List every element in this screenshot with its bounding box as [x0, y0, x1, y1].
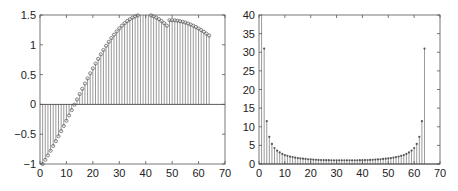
dot-marker: [392, 157, 394, 159]
y-tick-label: 20: [243, 84, 255, 96]
dot-marker: [346, 159, 348, 161]
y-tick-label: 10: [243, 121, 255, 133]
dot-marker: [307, 158, 309, 160]
x-tick-label: 20: [305, 167, 317, 179]
dot-marker: [263, 47, 265, 49]
dot-marker: [266, 120, 268, 122]
dot-marker: [382, 158, 384, 160]
dot-marker: [279, 151, 281, 153]
dot-marker: [400, 155, 402, 157]
y-tick-label: 5: [249, 139, 255, 151]
dot-marker: [330, 159, 332, 161]
dot-marker: [385, 158, 387, 160]
dot-marker: [408, 151, 410, 153]
dot-marker: [268, 136, 270, 138]
right-stem-plot: 0102030405060700510152025303540: [243, 9, 446, 179]
dot-marker: [367, 159, 369, 161]
dot-marker: [294, 157, 296, 159]
dot-marker: [354, 159, 356, 161]
dot-marker: [323, 159, 325, 161]
x-tick-label: 10: [60, 167, 72, 179]
x-tick-label: 40: [140, 167, 152, 179]
dot-marker: [374, 159, 376, 161]
dot-marker: [338, 159, 340, 161]
dot-marker: [372, 159, 374, 161]
dot-marker: [356, 159, 358, 161]
dot-marker: [359, 159, 361, 161]
y-tick-label: 15: [243, 102, 255, 114]
dot-marker: [320, 159, 322, 161]
x-tick-label: 70: [434, 167, 446, 179]
dot-marker: [343, 159, 345, 161]
dot-marker: [410, 149, 412, 151]
dot-marker: [390, 157, 392, 159]
y-tick-label: 1.5: [21, 9, 36, 21]
dot-marker: [395, 156, 397, 158]
x-tick-label: 50: [382, 167, 394, 179]
x-tick-label: 40: [356, 167, 368, 179]
x-tick-label: 0: [256, 167, 262, 179]
x-tick-label: 60: [408, 167, 420, 179]
dot-marker: [310, 158, 312, 160]
dot-marker: [351, 159, 353, 161]
dot-marker: [315, 159, 317, 161]
x-tick-label: 0: [37, 167, 43, 179]
dot-marker: [289, 155, 291, 157]
dot-marker: [413, 147, 415, 149]
dot-marker: [423, 47, 425, 49]
dot-marker: [364, 159, 366, 161]
y-tick-label: 0: [30, 98, 36, 110]
dot-marker: [284, 154, 286, 156]
x-tick-label: 50: [166, 167, 178, 179]
dot-marker: [328, 159, 330, 161]
dot-marker: [403, 154, 405, 156]
dot-marker: [348, 159, 350, 161]
y-tick-label: 40: [243, 9, 255, 21]
dot-marker: [271, 143, 273, 145]
dot-marker: [387, 157, 389, 159]
dot-marker: [377, 158, 379, 160]
y-tick-label: 0.5: [21, 69, 36, 81]
dot-marker: [286, 155, 288, 157]
dot-marker: [369, 159, 371, 161]
x-tick-label: 10: [279, 167, 291, 179]
x-tick-label: 30: [113, 167, 125, 179]
y-tick-label: 30: [243, 46, 255, 58]
y-tick-label: 0: [249, 158, 255, 170]
dot-marker: [276, 149, 278, 151]
y-tick-label: −0.5: [14, 128, 36, 140]
dot-marker: [333, 159, 335, 161]
x-tick-label: 20: [87, 167, 99, 179]
dot-marker: [379, 158, 381, 160]
dot-marker: [421, 120, 423, 122]
y-tick-label: 1: [30, 39, 36, 51]
dot-marker: [304, 158, 306, 160]
dot-marker: [292, 156, 294, 158]
dot-marker: [297, 157, 299, 159]
axes-frame: [259, 15, 440, 164]
x-tick-label: 60: [192, 167, 204, 179]
x-tick-label: 70: [219, 167, 231, 179]
y-tick-label: 25: [243, 65, 255, 77]
dot-marker: [398, 155, 400, 157]
dot-marker: [325, 159, 327, 161]
dot-marker: [273, 147, 275, 149]
dot-marker: [312, 159, 314, 161]
dot-marker: [418, 136, 420, 138]
x-tick-label: 30: [330, 167, 342, 179]
y-tick-label: −1: [23, 158, 36, 170]
dot-marker: [416, 143, 418, 145]
left-stem-plot: 010203040506070−1−0.500.511.5: [14, 9, 231, 179]
dot-marker: [281, 153, 283, 155]
figure: 010203040506070−1−0.500.511.5 0102030405…: [0, 0, 458, 191]
y-tick-label: 35: [243, 28, 255, 40]
dot-marker: [361, 159, 363, 161]
dot-marker: [299, 157, 301, 159]
dot-marker: [302, 158, 304, 160]
dot-marker: [341, 159, 343, 161]
dot-marker: [317, 159, 319, 161]
dot-marker: [405, 153, 407, 155]
